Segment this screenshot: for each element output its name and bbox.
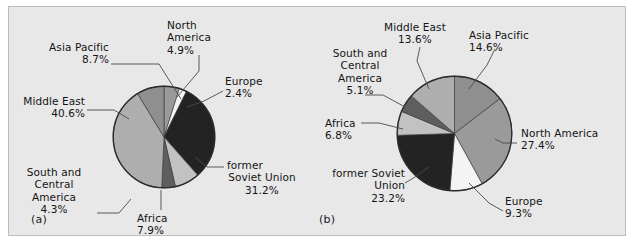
label-line: Central [319, 59, 401, 71]
label-line: 14.6% [469, 41, 553, 53]
label-line: South and [13, 166, 95, 178]
pie-chart-a: Asia Pacific 8.7% North America 4.9% Eur… [9, 7, 317, 235]
panel-label-b: (b) [319, 213, 335, 226]
label-line: former [213, 159, 311, 171]
label-south-central-america-a: South and Central America 4.3% [13, 166, 95, 216]
label-asia-pacific-a: Asia Pacific 8.7% [9, 41, 109, 66]
label-line: 8.7% [9, 53, 109, 65]
label-middle-east-a: Middle East 40.6% [9, 95, 85, 120]
label-line: former Soviet [317, 167, 405, 179]
label-line: America [167, 31, 237, 43]
label-asia-pacific-b: Asia Pacific 14.6% [469, 29, 553, 54]
label-line: 2.4% [225, 87, 295, 99]
label-line: 9.3% [505, 207, 571, 219]
label-line: 13.6% [369, 33, 461, 45]
label-middle-east-b: Middle East 13.6% [369, 21, 461, 46]
label-line: North America [521, 127, 617, 139]
label-former-soviet-union-b: former Soviet Union 23.2% [317, 167, 405, 204]
label-south-central-america-b: South and Central America 5.1% [319, 47, 401, 97]
label-north-america-a: North America 4.9% [167, 19, 237, 56]
label-line: South and [319, 47, 401, 59]
label-africa-a: Africa 7.9% [137, 212, 197, 237]
label-former-soviet-union-a: former Soviet Union 31.2% [213, 159, 311, 196]
figure-panel: Asia Pacific 8.7% North America 4.9% Eur… [8, 6, 626, 236]
label-line: Middle East [369, 21, 461, 33]
label-africa-b: Africa 6.8% [325, 117, 381, 142]
label-line: America [13, 191, 95, 203]
label-line: Middle East [9, 95, 85, 107]
label-line: 5.1% [319, 84, 401, 96]
panel-label-a: (a) [31, 213, 47, 226]
label-north-america-b: North America 27.4% [521, 127, 617, 152]
label-line: 40.6% [9, 107, 85, 119]
label-line: Europe [505, 195, 571, 207]
label-line: 27.4% [521, 139, 617, 151]
label-line: Asia Pacific [469, 29, 553, 41]
pie-slice-former-soviet-union [397, 134, 454, 191]
pie-a-graphic [112, 85, 216, 189]
label-line: 23.2% [317, 192, 405, 204]
label-europe-b: Europe 9.3% [505, 195, 571, 220]
figure-page: Asia Pacific 8.7% North America 4.9% Eur… [0, 0, 632, 252]
label-europe-a: Europe 2.4% [225, 75, 295, 100]
label-line: Central [13, 178, 95, 190]
pie-b-graphic [396, 75, 513, 192]
label-line: Asia Pacific [9, 41, 109, 53]
label-line: 4.3% [13, 203, 95, 215]
label-line: America [319, 72, 401, 84]
pie-chart-b: Middle East 13.6% Asia Pacific 14.6% Nor… [317, 7, 625, 235]
label-line: 4.9% [167, 44, 237, 56]
label-line: 31.2% [213, 184, 311, 196]
label-line: Union [317, 179, 405, 191]
label-line: Soviet Union [213, 171, 311, 183]
label-line: Africa [137, 212, 197, 224]
label-line: Africa [325, 117, 381, 129]
label-line: Europe [225, 75, 295, 87]
label-line: 6.8% [325, 129, 381, 141]
label-line: 7.9% [137, 224, 197, 236]
caption-strip [0, 240, 632, 252]
label-line: North [167, 19, 237, 31]
